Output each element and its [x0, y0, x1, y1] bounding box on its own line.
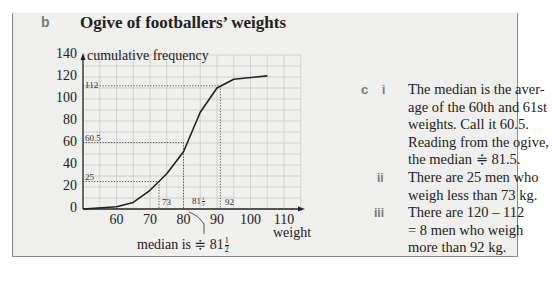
x-axis-arrow-icon — [298, 207, 305, 212]
answer-ii: There are 25 men who weigh less than 73 … — [408, 169, 553, 204]
annotation-25: 25 — [85, 172, 94, 182]
annotation-lines — [83, 86, 220, 209]
answer-i-line: the median ≑ 81.5. — [408, 151, 553, 169]
annotation-112: 112 — [85, 80, 98, 90]
answer-ii-line: There are 25 men who — [408, 169, 553, 187]
annotation-60-5: 60.5 — [85, 133, 101, 143]
annotation-73: 73 — [162, 197, 171, 207]
y-tick-label: 80 — [47, 112, 77, 128]
answer-i-line: age of the 60th and 61st — [408, 99, 553, 117]
x-tick-label: 60 — [102, 212, 132, 228]
x-tick-label: 100 — [236, 212, 266, 228]
answer-iii: There are 120 – 112 = 8 men who weigh mo… — [408, 204, 553, 257]
y-axis-label: cumulative frequency — [87, 48, 209, 64]
x-axis-label: weight — [273, 225, 311, 241]
x-tick-label: 80 — [169, 212, 199, 228]
x-tick-label: 70 — [135, 212, 165, 228]
median-callout: median is ≑ 8112 — [137, 236, 229, 254]
answer-iii-line: more than 92 kg. — [408, 239, 553, 257]
part-c-label: c — [361, 82, 368, 97]
answer-iii-line: There are 120 – 112 — [408, 204, 553, 222]
answer-iii-line: = 8 men who weigh — [408, 222, 553, 240]
y-tick-label: 140 — [47, 46, 77, 62]
y-tick-label: 100 — [47, 90, 77, 106]
answer-i-line: Reading from the ogive, — [408, 134, 553, 152]
y-tick-label: 60 — [47, 134, 77, 150]
answer-i-line: The median is the aver- — [408, 81, 553, 99]
y-tick-label: 0 — [47, 200, 77, 216]
answer-ii-line: weigh less than 73 kg. — [408, 187, 553, 205]
item-ii-numeral: ii — [377, 171, 384, 185]
annotation-81-5: 8112 — [192, 196, 205, 207]
answer-i: The median is the aver- age of the 60th … — [408, 81, 553, 169]
y-tick-label: 20 — [47, 178, 77, 194]
answer-i-line: weights. Call it 60.5. — [408, 116, 553, 134]
y-tick-label: 40 — [47, 156, 77, 172]
y-tick-label: 120 — [47, 68, 77, 84]
x-tick-label: 90 — [202, 212, 232, 228]
item-i-numeral: i — [382, 83, 385, 97]
annotation-92: 92 — [225, 197, 234, 207]
ogive-curve — [83, 76, 267, 209]
y-axis-arrow-icon — [81, 53, 86, 60]
item-iii-numeral: iii — [374, 206, 384, 220]
